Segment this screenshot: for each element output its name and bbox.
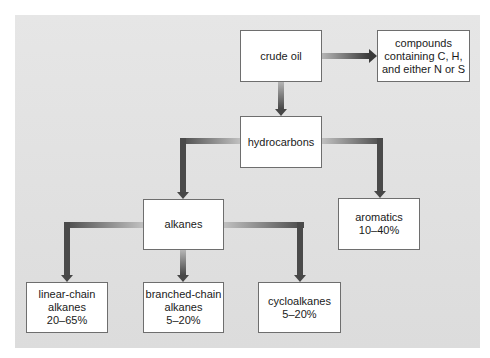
node-label: branched-chain: [146, 288, 222, 301]
arrowhead-down-icon: [374, 191, 386, 198]
node-linear-chain-alkanes: linear-chain alkanes 20–65%: [26, 282, 108, 333]
node-branched-chain-alkanes: branched-chain alkanes 5–20%: [143, 282, 224, 333]
connector-alkanes-to-branched: [180, 250, 186, 275]
node-label: linear-chain: [39, 288, 96, 301]
node-label: hydrocarbons: [248, 136, 315, 149]
node-label: compounds: [395, 37, 452, 50]
node-cycloalkanes: cycloalkanes 5–20%: [258, 282, 341, 333]
node-label: alkanes: [48, 301, 86, 314]
arrowhead-down-icon: [294, 275, 306, 282]
connector-alkanes-to-cyclo: [297, 222, 303, 275]
node-label: cycloalkanes: [268, 295, 331, 308]
connector-alkanes-right: [224, 222, 304, 228]
node-aromatics: aromatics 10–40%: [338, 198, 420, 250]
node-label: and either N or S: [382, 63, 465, 76]
node-value: 20–65%: [47, 314, 87, 327]
node-label: aromatics: [355, 211, 403, 224]
arrowhead-down-icon: [177, 275, 189, 282]
node-label: alkanes: [165, 218, 203, 231]
node-crude-oil: crude oil: [240, 30, 322, 82]
node-label: crude oil: [260, 50, 302, 63]
arrowhead-down-icon: [177, 192, 189, 199]
connector-alkanes-to-linear: [64, 222, 70, 275]
connector-hydrocarbons-left: [180, 138, 240, 144]
node-compounds: compounds containing C, H, and either N …: [377, 30, 470, 82]
node-value: 5–20%: [282, 308, 316, 321]
arrowhead-down-icon: [61, 275, 73, 282]
node-label: containing C, H,: [384, 50, 462, 63]
node-value: 5–20%: [166, 314, 200, 327]
connector-crude-to-compounds: [322, 53, 369, 59]
connector-hydrocarbons-right: [322, 138, 383, 144]
connector-hydrocarbons-to-aromatics: [377, 138, 383, 191]
connector-crude-to-hydrocarbons: [278, 82, 284, 109]
arrowhead-right-icon: [369, 49, 377, 63]
node-hydrocarbons: hydrocarbons: [240, 116, 322, 168]
node-label: alkanes: [165, 301, 203, 314]
arrowhead-down-icon: [275, 109, 287, 116]
connector-alkanes-left: [64, 222, 143, 228]
connector-hydrocarbons-to-alkanes: [180, 138, 186, 192]
node-value: 10–40%: [359, 224, 399, 237]
node-alkanes: alkanes: [143, 199, 224, 250]
